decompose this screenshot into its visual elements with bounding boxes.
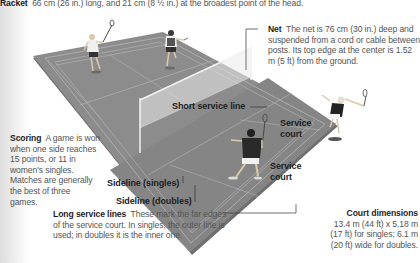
court-dimensions-text: 13.4 m (44 ft) x 5.18 m (17 ft) for sing… xyxy=(322,219,418,251)
net-title: Net xyxy=(268,24,282,34)
scoring-text: A game is won when one side reaches 15 p… xyxy=(10,133,100,207)
court-dimensions-caption: Court dimensions 13.4 m (44 ft) x 5.18 m… xyxy=(322,208,418,250)
net-caption: Net The net is 76 cm (30 in.) deep and s… xyxy=(268,24,420,66)
long-service-lines-caption: Long service lines These mark the far ed… xyxy=(53,209,228,241)
scoring-title: Scoring xyxy=(10,133,41,143)
racket-text: 66 cm (26 in.) long, and 21 cm (8 ½ in.)… xyxy=(32,0,303,8)
scoring-caption: Scoring A game is won when one side reac… xyxy=(10,133,100,207)
service-court-upper-label: Service court xyxy=(280,118,326,140)
service-court-lower-label: Service court xyxy=(270,161,316,183)
racket-title: Racket xyxy=(0,0,28,8)
net-text: The net is 76 cm (30 in.) deep and suspe… xyxy=(268,24,420,66)
sideline-singles-label: Sideline (singles) xyxy=(107,178,179,189)
short-service-line-label: Short service line xyxy=(172,101,245,112)
racket-caption: Racket 66 cm (26 in.) long, and 21 cm (8… xyxy=(0,0,420,9)
court-dimensions-title: Court dimensions xyxy=(322,208,418,219)
long-service-lines-title: Long service lines xyxy=(53,209,126,219)
sideline-doubles-label: Sideline (doubles) xyxy=(116,196,192,207)
